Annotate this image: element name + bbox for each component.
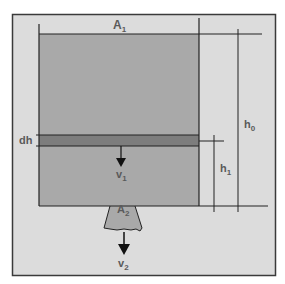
label-dh: dh <box>19 134 33 146</box>
tank-draining-diagram: A1 dh v1 h0 h1 A2 v2 <box>0 0 285 284</box>
slice-dh <box>39 135 199 146</box>
tank-liquid <box>39 34 199 206</box>
